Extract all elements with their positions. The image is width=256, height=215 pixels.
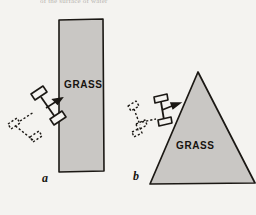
velocity-arrow-b bbox=[162, 103, 180, 110]
grass-label-a: GRASS bbox=[64, 79, 103, 90]
grass-triangle-b bbox=[150, 72, 255, 184]
diagram-canvas: GRASS bbox=[0, 0, 256, 215]
panel-label-b: b bbox=[133, 169, 139, 183]
figure-root: of the surface of water GRASS bbox=[0, 0, 256, 215]
panel-b: GRASS bbox=[128, 72, 255, 184]
phantom-cart-b bbox=[128, 101, 156, 137]
panel-label-a: a bbox=[42, 171, 48, 185]
grass-rectangle-a bbox=[59, 19, 104, 172]
panel-a: GRASS bbox=[8, 19, 104, 185]
phantom-cart-a bbox=[8, 112, 42, 142]
grass-label-b: GRASS bbox=[176, 140, 215, 151]
